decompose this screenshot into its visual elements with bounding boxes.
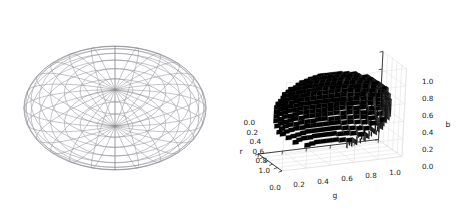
r-axis-tick-labels: 0.0 0.2 0.4 0.6 0.8 1.0 — [244, 118, 271, 175]
b-tick-3: 0.4 — [422, 128, 434, 137]
wireframe-plot-panel — [0, 0, 236, 215]
voxel-plot-panel: 0.0 0.2 0.4 0.6 0.8 1.0 r 0.0 0.2 0.4 0.… — [236, 0, 473, 215]
r-tick-2: 0.4 — [250, 137, 262, 146]
b-tick-0: 1.0 — [422, 77, 434, 86]
matplotlib-figure: 0.0 0.2 0.4 0.6 0.8 1.0 r 0.0 0.2 0.4 0.… — [0, 0, 473, 215]
g-tick-5: 1.0 — [389, 168, 401, 177]
r-tick-4: 0.8 — [256, 156, 268, 165]
b-tick-1: 0.8 — [422, 94, 434, 103]
g-axis-tick-labels: 0.0 0.2 0.4 0.6 0.8 1.0 — [269, 168, 401, 192]
voxel-ellipsoid-svg: 0.0 0.2 0.4 0.6 0.8 1.0 r 0.0 0.2 0.4 0.… — [236, 0, 473, 215]
r-tick-3: 0.6 — [253, 147, 265, 156]
r-tick-5: 1.0 — [259, 166, 271, 175]
r-axis-label: r — [239, 147, 243, 156]
g-tick-2: 0.4 — [317, 177, 329, 186]
g-tick-0: 0.0 — [269, 183, 281, 192]
b-axis-tick-labels: 1.0 0.8 0.6 0.4 0.2 0.0 — [422, 77, 434, 171]
wireframe-mesh — [24, 46, 206, 170]
b-tick-5: 0.0 — [422, 162, 434, 171]
b-tick-4: 0.2 — [422, 145, 433, 154]
g-tick-3: 0.6 — [341, 174, 353, 183]
wireframe-ellipsoid-svg — [0, 0, 236, 215]
r-tick-0: 0.0 — [244, 118, 256, 127]
r-tick-1: 0.2 — [247, 128, 258, 137]
g-tick-1: 0.2 — [293, 180, 304, 189]
b-tick-2: 0.6 — [422, 111, 434, 120]
g-axis-label: g — [333, 191, 338, 200]
b-axis-label: b — [446, 120, 451, 129]
g-tick-4: 0.8 — [365, 171, 377, 180]
